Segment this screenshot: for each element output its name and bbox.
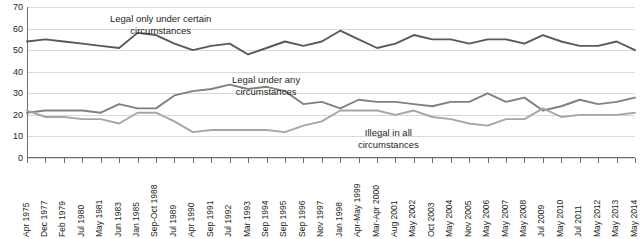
x-axis-tick-label: Apr 1990	[187, 203, 196, 238]
x-axis-tick-21	[414, 158, 415, 163]
x-axis-tick-15	[303, 158, 304, 163]
x-axis-tick-label: Sep 1991	[206, 201, 215, 237]
x-axis-tick-6	[138, 158, 139, 163]
x-axis-tick-label: Apr-May 1999	[353, 184, 362, 237]
x-axis-tick-18	[359, 158, 360, 163]
x-axis-tick-10	[211, 158, 212, 163]
x-axis-tick-3	[82, 158, 83, 163]
series-line	[27, 108, 635, 132]
x-axis-tick-label: May 1981	[95, 200, 104, 237]
x-axis-tick-28	[543, 158, 544, 163]
x-axis-tick-27	[524, 158, 525, 163]
x-axis-tick-label: May 2008	[519, 200, 528, 237]
x-axis-tick-label: Dec 1977	[40, 201, 49, 237]
line-chart: 010203040506070 Apr 1975Dec 1977Feb 1979…	[0, 0, 642, 239]
annotation-legal-only-under-certain-circumstances: Legal only under certain circumstances	[110, 13, 211, 36]
annotation-legal-under-any-circumstances: Legal under any circumstances	[232, 74, 300, 97]
x-axis-tick-label: Jul 1989	[169, 205, 178, 237]
x-axis-tick-13	[267, 158, 268, 163]
x-axis-tick-label: May 2010	[556, 200, 565, 237]
x-axis-tick-label: Aug 2001	[390, 201, 399, 237]
y-axis-tick-label-50: 50	[13, 46, 23, 55]
x-axis-tick-label: Sep 1996	[298, 201, 307, 237]
x-axis-tick-23	[451, 158, 452, 163]
x-axis-labels: Apr 1975Dec 1977Feb 1979Jul 1980May 1981…	[27, 165, 635, 239]
x-axis-tick-label: Sep-Oct 1988	[150, 185, 159, 237]
y-axis-tick-label-40: 40	[13, 67, 23, 76]
x-axis-tick-label: Mar 1993	[243, 201, 252, 237]
x-axis-tick-5	[119, 158, 120, 163]
x-axis-tick-2	[64, 158, 65, 163]
x-axis-tick-label: May 2007	[501, 200, 510, 237]
x-axis-tick-label: Jul 2009	[537, 205, 546, 237]
y-axis-tick-label-60: 60	[13, 24, 23, 33]
x-axis-tick-7	[156, 158, 157, 163]
x-axis-tick-label: Mar-Apr 2000	[372, 185, 381, 237]
x-axis-tick-4	[101, 158, 102, 163]
x-axis-tick-24	[469, 158, 470, 163]
x-axis-tick-label: Jan 1985	[132, 202, 141, 237]
x-axis-tick-label: Oct 2003	[427, 203, 436, 238]
x-axis-tick-0	[27, 158, 28, 163]
x-axis-tick-label: Jan 1998	[335, 202, 344, 237]
x-axis-tick-11	[230, 158, 231, 163]
x-axis-tick-12	[248, 158, 249, 163]
x-axis-tick-26	[506, 158, 507, 163]
x-axis-tick-label: Jul 1992	[224, 205, 233, 237]
x-axis-tick-25	[488, 158, 489, 163]
x-axis-tick-label: Jun 1983	[114, 202, 123, 237]
x-axis-tick-29	[561, 158, 562, 163]
y-axis-tick-label-70: 70	[13, 3, 23, 12]
x-axis-tick-label: May 2014	[630, 200, 639, 237]
x-axis-tick-label: May 2002	[408, 200, 417, 237]
x-axis-tick-label: Nov 1997	[316, 201, 325, 237]
y-axis-labels: 010203040506070	[0, 0, 27, 158]
x-axis-tick-32	[617, 158, 618, 163]
x-axis-ticks	[27, 158, 635, 164]
y-axis-tick-label-10: 10	[13, 132, 23, 141]
annotation-illegal-in-all-circumstances: Illegal in all circumstances	[358, 127, 419, 150]
x-axis-tick-8	[174, 158, 175, 163]
x-axis-tick-label: Sep 1994	[261, 201, 270, 237]
x-axis-tick-label: May 2013	[611, 200, 620, 237]
y-axis-tick-label-30: 30	[13, 89, 23, 98]
x-axis-tick-label: May 2012	[593, 200, 602, 237]
x-axis-tick-20	[395, 158, 396, 163]
x-axis-tick-1	[45, 158, 46, 163]
x-axis-tick-label: Sep 1995	[279, 201, 288, 237]
x-axis-tick-17	[340, 158, 341, 163]
x-axis-tick-label: May 2004	[445, 200, 454, 237]
x-axis-tick-31	[598, 158, 599, 163]
x-axis-tick-label: Jul 2011	[574, 205, 583, 237]
y-axis-tick-label-0: 0	[18, 154, 23, 163]
x-axis-tick-30	[580, 158, 581, 163]
x-axis-tick-9	[193, 158, 194, 163]
x-axis-tick-label: Apr 1975	[22, 203, 31, 238]
x-axis-tick-22	[432, 158, 433, 163]
y-axis-tick-label-20: 20	[13, 110, 23, 119]
x-axis-tick-14	[285, 158, 286, 163]
x-axis-tick-33	[635, 158, 636, 163]
x-axis-tick-label: May 2006	[482, 200, 491, 237]
x-axis-tick-19	[377, 158, 378, 163]
x-axis-tick-16	[322, 158, 323, 163]
x-axis-tick-label: Feb 1979	[58, 201, 67, 237]
x-axis-tick-label: Jul 1980	[77, 205, 86, 237]
x-axis-tick-label: Nov 2005	[464, 201, 473, 237]
